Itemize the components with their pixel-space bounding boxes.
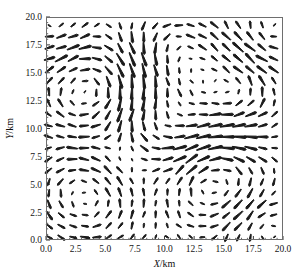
vector-arrow: [93, 36, 101, 38]
vector-arrow: [179, 188, 181, 196]
vector-arrow: [95, 89, 97, 97]
vector-arrow: [272, 178, 275, 186]
vector-arrow: [143, 211, 146, 217]
vector-arrow: [82, 214, 88, 216]
vector-arrow: [272, 123, 278, 127]
vector-arrow: [44, 56, 55, 60]
vector-arrow: [259, 147, 268, 150]
vector-arrow: [119, 157, 121, 161]
vector-arrow: [94, 212, 99, 217]
vector-arrow: [118, 32, 122, 42]
vector-arrow: [56, 147, 65, 150]
vector-arrow: [93, 179, 99, 184]
x-tick-label: 20.0: [275, 244, 292, 254]
vector-arrow: [131, 167, 132, 172]
vector-arrow: [224, 234, 228, 242]
vector-arrow: [214, 79, 216, 81]
vector-field-plot: 0.02.55.07.510.012.515.017.520.00.02.55.…: [0, 0, 304, 278]
vector-arrow: [93, 68, 102, 72]
vector-arrow: [258, 124, 267, 128]
vector-arrow: [142, 235, 146, 240]
vector-arrow: [269, 202, 277, 205]
vector-arrow: [258, 112, 267, 117]
vector-arrow: [56, 111, 64, 117]
vector-arrow: [210, 32, 218, 39]
vector-arrow: [175, 125, 185, 127]
vector-arrow: [155, 210, 157, 217]
vector-arrow: [131, 158, 132, 161]
vector-arrow: [211, 43, 218, 51]
vector-arrow: [104, 166, 112, 174]
vector-arrow: [213, 181, 219, 183]
x-tick-label: 2.5: [70, 244, 82, 254]
vector-arrow: [92, 57, 102, 61]
vector-arrow: [141, 133, 148, 141]
vector-arrow: [66, 146, 77, 149]
vector-arrow: [152, 147, 161, 150]
vector-arrow: [92, 101, 99, 106]
vector-arrow: [249, 234, 251, 241]
vector-arrow: [234, 112, 245, 117]
vector-arrow: [186, 154, 198, 163]
vector-arrow: [177, 46, 181, 50]
vector-arrow: [271, 111, 277, 117]
vector-arrow: [259, 32, 265, 39]
vector-arrow: [56, 168, 64, 173]
vector-arrow: [236, 100, 243, 106]
vector-arrow: [246, 157, 255, 163]
vector-arrow: [69, 67, 77, 71]
vector-arrow: [118, 187, 122, 196]
vector-arrow: [92, 111, 100, 118]
vector-arrow: [236, 77, 241, 83]
vector-arrow: [81, 103, 86, 105]
vector-arrow: [155, 234, 157, 238]
vector-arrow: [118, 43, 124, 53]
vector-arrow: [154, 99, 157, 110]
vector-arrow: [177, 234, 180, 239]
vector-arrow: [257, 66, 267, 74]
vector-arrow: [269, 66, 279, 73]
vector-arrow: [257, 200, 266, 208]
vector-arrow: [141, 22, 145, 31]
vector-arrow: [258, 157, 267, 163]
vector-arrow: [80, 68, 90, 71]
vector-arrow: [190, 80, 194, 83]
vector-arrow: [249, 21, 251, 29]
vector-arrow: [58, 99, 63, 107]
vector-arrow: [91, 156, 100, 161]
x-tick-label: 12.5: [186, 244, 203, 254]
vector-arrow: [131, 133, 134, 143]
vector-arrow: [56, 45, 66, 49]
vector-arrow: [67, 44, 79, 50]
vector-arrow: [105, 99, 111, 109]
vector-arrow: [152, 158, 161, 160]
vector-arrow: [177, 89, 181, 97]
vector-arrow: [247, 32, 254, 41]
vector-arrow: [223, 212, 230, 218]
vector-arrow: [202, 190, 204, 194]
vector-arrow: [189, 235, 193, 239]
vector-arrow: [105, 147, 111, 149]
vector-arrow: [210, 113, 222, 116]
vector-arrow: [222, 43, 230, 51]
vector-arrow: [163, 168, 172, 172]
vector-arrow: [152, 168, 160, 172]
vector-arrow: [167, 188, 169, 195]
vector-arrow: [59, 23, 64, 27]
vector-arrow: [152, 23, 158, 29]
vector-arrow: [199, 166, 209, 173]
vector-arrow: [57, 179, 63, 186]
vector-arrow: [105, 122, 111, 131]
vector-arrow: [167, 55, 169, 63]
vector-arrow: [60, 87, 62, 95]
vector-arrow: [70, 225, 77, 228]
vector-arrow: [105, 66, 112, 74]
vector-arrow: [104, 45, 113, 51]
vector-arrow: [245, 112, 256, 117]
vector-arrow: [44, 135, 53, 139]
vector-arrow: [58, 77, 64, 83]
vector-arrow: [202, 80, 203, 83]
vector-arrow: [55, 124, 64, 128]
vector-arrow: [201, 179, 207, 183]
vector-arrow: [165, 125, 172, 127]
